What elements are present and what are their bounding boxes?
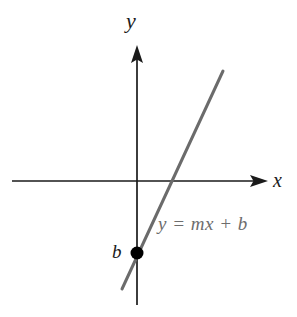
x-axis-label-text: x [273, 169, 282, 191]
y-intercept-label-text: b [112, 241, 122, 262]
y-axis-label-text: y [126, 8, 136, 33]
x-axis-label: x [273, 169, 282, 192]
linear-function-figure: y x b y = mx + b [0, 0, 297, 317]
y-intercept-label: b [112, 241, 122, 263]
y-axis-label: y [126, 8, 136, 34]
y-intercept-point [131, 247, 144, 260]
equation-label-text: y = mx + b [158, 213, 248, 234]
graph-canvas [0, 0, 297, 317]
equation-label: y = mx + b [158, 213, 248, 235]
